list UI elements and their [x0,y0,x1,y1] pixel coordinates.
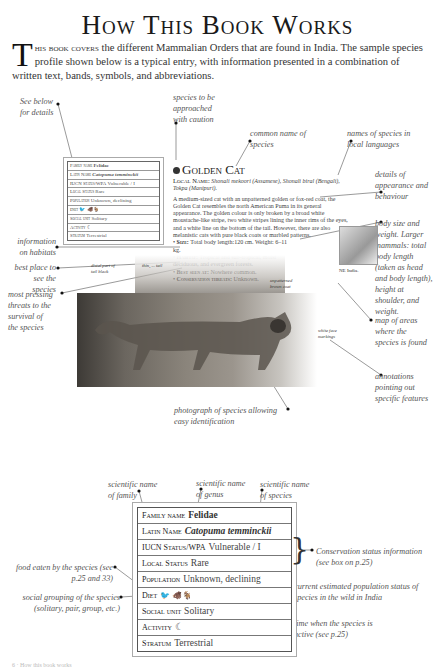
caution-icon [173,167,180,174]
intro-line1: the different Mammalian Orders that are … [99,42,338,53]
note-activity: time when the species is active (see p.2… [294,618,379,640]
note-body-size: body size and weight. Larger mammals: to… [375,218,433,317]
note-species: scientific name of species [260,479,315,501]
photo-note-thin-tail: thin, ... tail [142,263,167,269]
moon-icon: ☾ [87,225,91,230]
note-population: current estimated population status of s… [294,581,419,603]
row-stratum: StratumTerrestrial [138,636,291,651]
species-description: A medium-sized cat with an unpatterned g… [173,196,351,240]
photo-note-tail: distal part of tail black [91,263,121,274]
note-family: scientific name of family [108,479,163,501]
diet-icons: 🐦 🐗🐐 [160,591,192,600]
intro-paragraph: This book covers the different Mammalian… [12,41,432,83]
row-social: Social unitSolitary [138,604,291,620]
page-title: How This Book Works [0,10,435,41]
note-threats: most pressing threats to the survival of… [8,289,54,333]
note-annotations: annotations pointing out specific featur… [375,371,430,404]
intro-lead-caps: his book covers [35,42,99,53]
row-latin: Latin NameCatopuma temminckii [138,524,291,540]
detail-factbox: Family nameFelidae Latin NameCatopuma te… [132,502,297,657]
note-common-name: common name of species [250,128,310,150]
cat-silhouette [90,310,300,380]
diet-icons: 🐦 🐗🐐 [79,207,98,212]
species-name: Golden Cat [173,163,351,177]
note-caution: species to be approached with caution [173,92,223,125]
note-food: food eaten by the species (see p.25 and … [8,562,113,584]
photo-note-coat: unpatterned brown coat [270,278,302,289]
note-social: social grouping of the species (solitary… [8,592,120,614]
moon-icon: ☾ [175,622,184,632]
drop-cap: T [12,41,33,69]
row-activity: Activity☾ [138,620,291,636]
row-local-status: Local StatusRare [138,556,291,572]
sample-factbox: Family name Felidae Latin Name Catopuma … [63,157,164,245]
distribution-map [339,226,378,265]
page-footer: 6 · How this book works [12,662,72,668]
row-family: Family nameFelidae [138,508,291,524]
note-local-names: names of species in local languages [347,128,417,150]
note-genus: scientific name of genus [196,478,251,500]
note-conservation: Conservation status information (see box… [316,546,426,568]
note-appearance: details of appearance and behaviour [375,169,430,202]
note-see-below: See below for details [20,96,60,118]
photo-note-face: white face markings [318,328,343,339]
note-photograph: photograph of species allowing easy iden… [174,405,284,427]
row-population: PopulationUnknown, declining [138,572,291,588]
map-label: NE India. [339,268,358,273]
note-habitats: information on habitats [12,236,56,258]
brace-icon: } [290,534,309,564]
note-map: map of areas where the species is found [375,315,430,348]
row-iucn: IUCN Status/WPAVulnerable / I [138,540,291,556]
row-diet: Diet🐦 🐗🐐 [138,588,291,604]
